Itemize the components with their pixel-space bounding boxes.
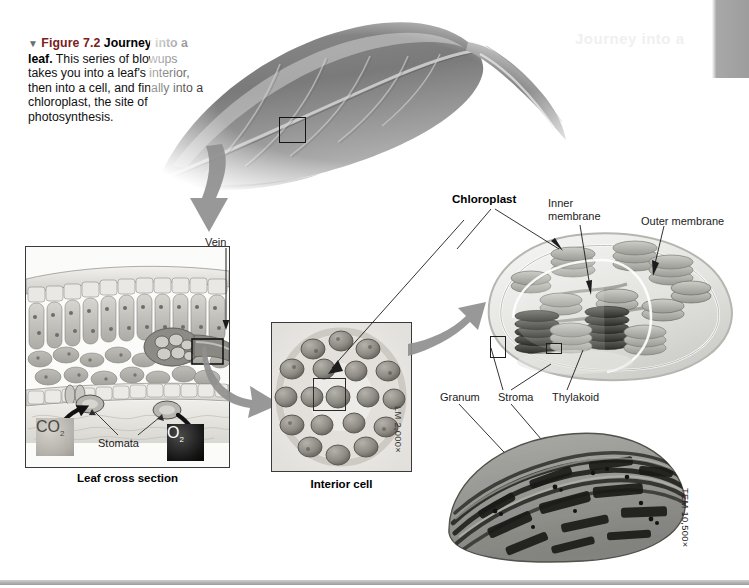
tem-micrograph-chloroplast: [443, 415, 691, 570]
outer-membrane-leader: [650, 226, 672, 278]
page-edge-tab: [712, 0, 749, 78]
arrow-leaf-to-cross-section: [176, 140, 246, 250]
vein-leader-line: [221, 248, 222, 330]
o2-label: O2: [167, 424, 184, 441]
label-vein: Vein: [205, 236, 226, 248]
label-inner-membrane: Inner membrane: [548, 197, 608, 222]
lower-chloroplast-leaders: [455, 342, 600, 394]
inner-membrane-leader: [578, 225, 598, 300]
ghost-bleed-text: Journey into a: [575, 30, 710, 52]
label-stomata: Stomata: [98, 437, 139, 449]
page-bottom-rule: [0, 580, 749, 585]
o2-molecule-badge: O2: [167, 424, 204, 461]
co2-molecule-badge: CO2: [36, 418, 74, 456]
leaf-callout-box: [279, 117, 306, 143]
panel-label-interior-cell: Interior cell: [271, 478, 412, 490]
magnification-lm: LM 2,000×: [393, 406, 403, 484]
co2-label: CO2: [36, 418, 64, 435]
magnification-tem: TEM 10,500×: [680, 488, 690, 570]
panel-label-leaf-cross-section: Leaf cross section: [25, 472, 230, 484]
figure-number: Figure 7.2: [41, 36, 100, 50]
arrow-cross-section-to-cell: [200, 340, 282, 418]
caption-triangle-icon: ▼: [28, 38, 38, 49]
label-chloroplast: Chloroplast: [452, 192, 516, 205]
